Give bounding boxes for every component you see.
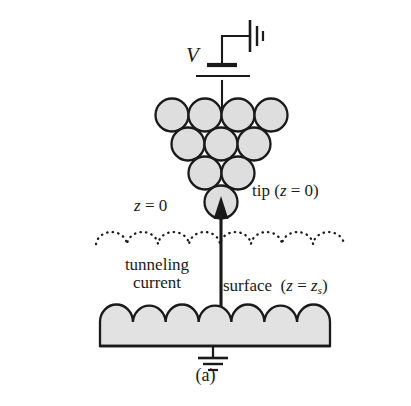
voltage-source-battery (196, 65, 250, 76)
atom-sphere (255, 99, 288, 132)
stm-diagram-figure: V tip (z = 0) z = 0 tunneling current su… (0, 0, 411, 406)
z-zero-symbol: z (134, 196, 141, 215)
tip-label: tip (z = 0) (252, 182, 319, 200)
surface-slab (100, 304, 330, 346)
surface-zs-subscript: s (318, 284, 322, 296)
tip-label-expression: (z = 0) (274, 181, 319, 200)
atom-sphere (189, 99, 222, 132)
z-zero-label: z = 0 (134, 197, 167, 215)
tunneling-current-label: tunneling current (98, 256, 216, 292)
atom-sphere (222, 99, 255, 132)
surface-label-expression: (z = zs) (276, 276, 327, 295)
atom-sphere (156, 99, 189, 132)
tip-z-symbol: z (280, 181, 287, 200)
tip-label-word: tip (252, 181, 270, 200)
figure-caption: (a) (0, 366, 411, 385)
atom-sphere (205, 128, 238, 161)
z-zero-value: = 0 (141, 196, 168, 215)
atom-sphere (222, 157, 255, 190)
atom-sphere (189, 157, 222, 190)
wire-battery-to-ground (222, 36, 250, 65)
surface-zs-base: z (311, 276, 318, 295)
ground-symbol-top (250, 20, 263, 52)
tunneling-current-line1: tunneling (98, 256, 216, 274)
circuit-wiring (222, 36, 250, 108)
stm-schematic-svg (0, 0, 411, 406)
surface-scallop-body (100, 304, 330, 346)
surface-z-symbol: z (286, 276, 293, 295)
voltage-label: V (186, 44, 199, 66)
surface-label: surface (z = zs) (223, 277, 328, 297)
atom-sphere (238, 128, 271, 161)
tunneling-current-line2: current (98, 274, 216, 292)
surface-label-word: surface (223, 276, 272, 295)
atom-sphere (172, 128, 205, 161)
